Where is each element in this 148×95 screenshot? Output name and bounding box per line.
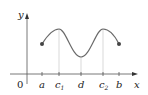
tick-label-c2: c2 bbox=[99, 79, 109, 91]
function-curve bbox=[42, 29, 119, 57]
y-axis-arrow-icon bbox=[25, 13, 29, 19]
x-axis-arrow-icon bbox=[132, 72, 138, 76]
endpoint-b-dot bbox=[117, 42, 121, 46]
y-axis bbox=[25, 13, 29, 84]
y-axis-label: y bbox=[17, 9, 24, 20]
tick-label-c1: c1 bbox=[55, 79, 64, 91]
tick-label-a: a bbox=[39, 79, 45, 90]
x-axis-label: x bbox=[134, 79, 140, 90]
tick-label-b: b bbox=[116, 79, 122, 90]
endpoint-a-dot bbox=[40, 42, 44, 46]
origin-label: 0 bbox=[17, 79, 23, 90]
tick-label-d: d bbox=[78, 79, 84, 90]
diagram-canvas: y x 0 a c1 d c2 b bbox=[0, 0, 148, 95]
